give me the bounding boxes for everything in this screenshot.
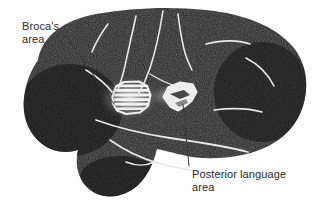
posterior-language-area-label: Posterior language area — [192, 168, 286, 193]
brain-language-areas-figure: Broca's area Posterior language area — [0, 0, 316, 204]
brocas-area-label: Broca's area — [22, 20, 59, 45]
posterior-language-area-region — [156, 80, 200, 112]
